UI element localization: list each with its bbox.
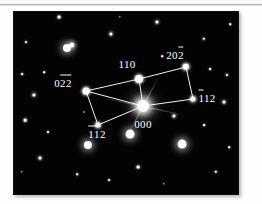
spot-022 <box>83 88 90 95</box>
edge-022-112bot <box>86 91 98 125</box>
index-digit-barred: 2 <box>66 77 72 89</box>
edge-202-112right <box>186 67 193 99</box>
index-digit: 110 <box>119 58 136 70</box>
index-digit: 0 <box>54 77 60 89</box>
label-000: 000 <box>134 119 151 130</box>
spot-000 <box>137 100 149 112</box>
index-digit-barred: 2 <box>60 77 66 89</box>
edge-000-022 <box>86 91 143 106</box>
index-digit-barred: 1 <box>198 92 203 104</box>
edge-110-202 <box>139 67 186 79</box>
edge-022-110 <box>86 79 139 91</box>
index-digit-barred: 1 <box>88 128 94 140</box>
figure-page: 022110202112000112 <box>0 0 262 204</box>
label-112-bottom: 112 <box>88 129 105 140</box>
label-112-right: 112 <box>198 93 215 104</box>
index-digit: 000 <box>134 118 151 130</box>
spot-110 <box>135 75 143 83</box>
index-digit-barred: 1 <box>94 128 100 140</box>
edge-112right-000 <box>143 99 193 106</box>
index-digit: 12 <box>204 92 216 104</box>
diffraction-pattern-plate: 022110202112000112 <box>13 11 239 195</box>
index-digit-barred: 2 <box>178 49 184 61</box>
index-digit: 20 <box>166 49 178 61</box>
label-110: 110 <box>119 59 136 70</box>
label-022: 022 <box>54 78 71 89</box>
label-202: 202 <box>166 50 183 61</box>
index-digit: 2 <box>100 128 106 140</box>
